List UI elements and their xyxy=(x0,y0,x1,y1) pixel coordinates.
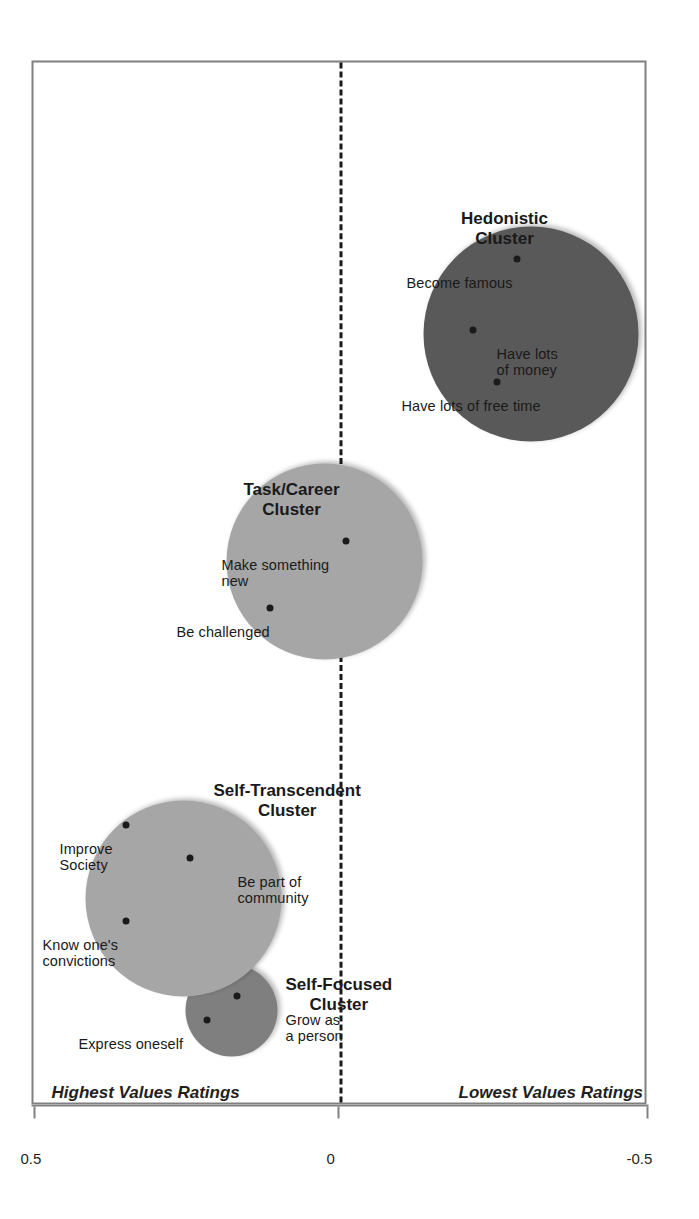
plot-area: Highest Values Ratings Lowest Values Rat… xyxy=(31,60,646,1104)
point-label-grow-as-a-person: Grow as a person xyxy=(285,1011,342,1043)
point-know-ones-convictions xyxy=(122,917,129,924)
point-make-something-new xyxy=(342,537,349,544)
cluster-label-self-transcendent: Self-Transcendent Cluster xyxy=(213,780,360,820)
point-label-make-something-new: Make something new xyxy=(221,556,329,588)
point-grow-as-a-person xyxy=(233,992,240,999)
point-label-be-part-of-community: Be part of community xyxy=(237,873,308,905)
cluster-label-hedonistic: Hedonistic Cluster xyxy=(431,208,577,248)
axis-tick-label-0: 0 xyxy=(326,1149,334,1166)
axis-tick-0 xyxy=(337,1106,339,1118)
lowest-values-annotation: Lowest Values Ratings xyxy=(458,1082,643,1102)
point-improve-society xyxy=(122,821,129,828)
point-label-improve-society: Improve Society xyxy=(59,840,112,872)
point-express-oneself xyxy=(203,1016,210,1023)
axis-tick-0-5 xyxy=(33,1106,35,1118)
point-label-have-lots-of-free-time: Have lots of free time xyxy=(401,397,540,413)
point-be-part-of-community xyxy=(186,854,193,861)
cluster-label-task-career: Task/Career Cluster xyxy=(243,479,339,519)
point-have-lots-of-free-time xyxy=(493,378,500,385)
point-label-have-lots-of-money: Have lots of money xyxy=(496,345,557,377)
axis-tick-neg0-5 xyxy=(646,1106,648,1118)
axis-tick-label-neg0-5: -0.5 xyxy=(626,1149,652,1166)
point-label-know-ones-convictions: Know one's convictions xyxy=(42,936,118,968)
highest-values-annotation: Highest Values Ratings xyxy=(51,1082,239,1102)
cluster-label-self-focused: Self-Focused Cluster xyxy=(285,974,392,1014)
point-label-be-challenged: Be challenged xyxy=(176,623,269,639)
point-become-famous xyxy=(513,255,520,262)
point-label-become-famous: Become famous xyxy=(406,274,512,290)
point-have-lots-of-money xyxy=(469,326,476,333)
axis-tick-label-0-5: 0.5 xyxy=(20,1149,41,1166)
values-cluster-chart: 0.5 0 -0.5 Highest Values Ratings Lowest… xyxy=(0,0,699,1219)
point-label-express-oneself: Express oneself xyxy=(78,1035,183,1051)
point-be-challenged xyxy=(266,604,273,611)
